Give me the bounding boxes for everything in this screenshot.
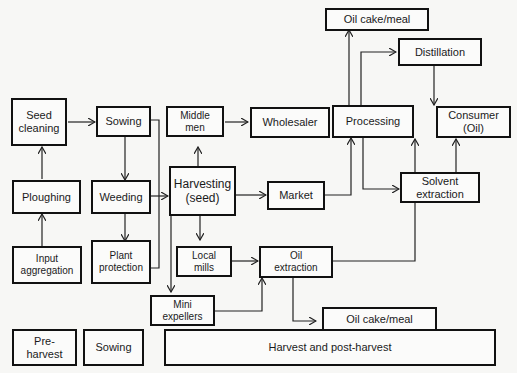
node-distillation: Distillation <box>398 38 482 66</box>
legend-pre-harvest: Pre- harvest <box>12 329 77 366</box>
node-wholesaler: Wholesaler <box>250 107 330 138</box>
node-mini-expellers: Mini expellers <box>150 295 215 326</box>
node-weeding: Weeding <box>91 180 151 214</box>
node-ploughing: Ploughing <box>12 180 81 214</box>
legend-sowing: Sowing <box>83 329 144 366</box>
node-seed-cleaning: Seed cleaning <box>11 98 67 146</box>
node-consumer-oil: Consumer (Oil) <box>436 106 511 138</box>
value-chain-diagram: Oil cake/meal Distillation Seed cleaning… <box>0 0 517 373</box>
node-oil-extraction: Oil extraction <box>259 246 333 278</box>
legend-harvest-post-harvest: Harvest and post-harvest <box>164 329 496 366</box>
node-sowing: Sowing <box>96 106 151 137</box>
node-processing: Processing <box>332 105 414 138</box>
node-oil-cake-meal-top: Oil cake/meal <box>325 8 429 31</box>
node-local-mills: Local mills <box>176 246 232 277</box>
node-solvent-extraction: Solvent extraction <box>400 172 480 203</box>
node-middle-men: Middle men <box>166 106 224 137</box>
node-harvesting-seed: Harvesting (seed) <box>169 166 236 216</box>
node-plant-protection: Plant protection <box>91 240 151 284</box>
node-input-aggregation: Input aggregation <box>12 246 82 284</box>
node-market: Market <box>267 181 325 210</box>
